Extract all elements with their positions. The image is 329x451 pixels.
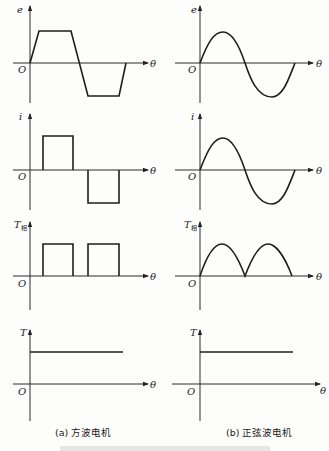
y-axis-label: e — [191, 4, 197, 15]
x-axis-label: θ — [316, 271, 322, 282]
panel-b-emf: e θ O — [175, 4, 322, 103]
y-axis-label: e — [17, 4, 23, 15]
x-axis-label: θ — [150, 379, 156, 390]
y-axis-label: T — [190, 327, 198, 338]
x-axis-label: θ — [150, 271, 156, 282]
y-axis-label: T相 — [14, 219, 27, 232]
origin-label: O — [18, 386, 26, 397]
panel-a-emf: e θ O — [13, 4, 156, 103]
origin-label: O — [187, 386, 195, 397]
panel-a-total-torque: T θ O — [13, 327, 156, 421]
sine-emf-curve — [200, 32, 295, 97]
column-a-square-wave-motor: e θ O i θ O T相 θ O T — [13, 4, 156, 438]
panel-b-current: i θ O — [175, 111, 322, 210]
origin-label: O — [188, 171, 196, 182]
panel-a-current: i θ O — [13, 111, 156, 210]
panel-b-phase-torque: T相 θ O — [175, 219, 322, 310]
x-axis-label: θ — [150, 58, 156, 69]
caption-a: (a) 方波电机 — [55, 427, 111, 438]
waveform-figure: e θ O i θ O T相 θ O T — [0, 0, 329, 451]
y-axis-label: i — [191, 111, 194, 122]
origin-label: O — [188, 64, 196, 75]
panel-b-total-torque: T θ O — [172, 327, 326, 421]
x-axis-label: θ — [316, 58, 322, 69]
positive-current-pulse — [43, 136, 73, 170]
column-b-sine-wave-motor: e θ O i θ O T相 θ O T θ — [172, 4, 326, 438]
phase-torque-pulse-2 — [88, 244, 119, 276]
panel-a-phase-torque: T相 θ O — [13, 219, 156, 310]
y-axis-label: i — [19, 111, 22, 122]
x-axis-label: θ — [316, 165, 322, 176]
negative-current-pulse — [88, 170, 119, 203]
sine-current-curve — [200, 138, 295, 204]
y-axis-label: T相 — [184, 219, 197, 232]
caption-b: (b) 正弦波电机 — [226, 427, 292, 438]
x-axis-label: θ — [150, 165, 156, 176]
origin-label: O — [18, 64, 26, 75]
origin-label: O — [18, 171, 26, 182]
phase-torque-pulse-1 — [43, 244, 73, 276]
x-axis-label: θ — [320, 385, 326, 396]
y-axis-label: T — [20, 327, 28, 338]
origin-label: O — [188, 278, 196, 289]
cutoff-figure-title — [60, 446, 270, 451]
origin-label: O — [18, 278, 26, 289]
phase-torque-curve — [200, 244, 292, 276]
